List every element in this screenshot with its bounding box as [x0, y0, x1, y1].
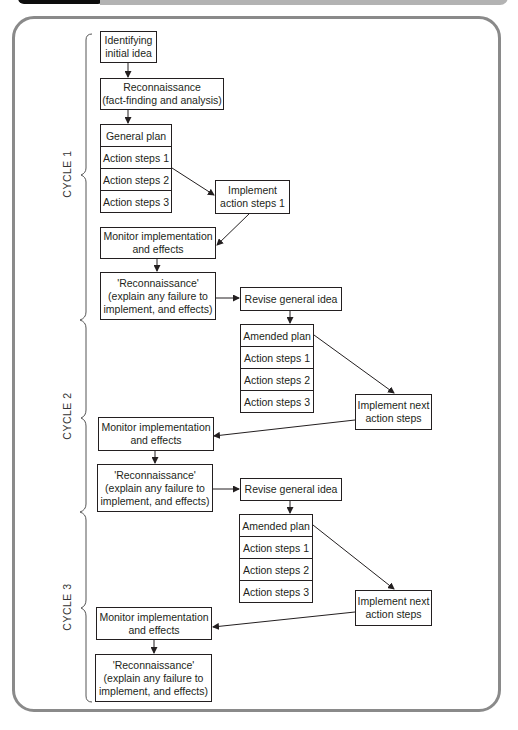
- box-line: initial idea: [105, 47, 152, 60]
- box-line: action steps: [365, 608, 421, 621]
- box-line: (explain any failure to: [108, 290, 208, 303]
- action-steps-3-row: Action steps 3: [241, 391, 313, 413]
- box-line: Implement next: [358, 595, 430, 608]
- cycle-3-label: CYCLE 3: [61, 583, 73, 630]
- box-line: (explain any failure to: [105, 482, 205, 495]
- box-line: Implement: [228, 184, 277, 197]
- box-line: and effects: [132, 243, 183, 256]
- box-line: implement, and effects): [104, 303, 213, 316]
- amended-plan-stack-2: Amended plan Action steps 1 Action steps…: [239, 514, 313, 603]
- box-line: implement, and effects): [99, 685, 208, 698]
- implement-next-box-2: Implement next action steps: [355, 590, 432, 626]
- implement-next-box-1: Implement next action steps: [355, 394, 432, 430]
- identifying-idea-box: Identifying initial idea: [100, 31, 157, 63]
- box-line: implement, and effects): [101, 495, 210, 508]
- box-line: Monitor implementation: [99, 611, 208, 624]
- box-line: Implement next: [358, 399, 430, 412]
- monitor-box-3: Monitor implementation and effects: [96, 607, 212, 640]
- action-steps-2-row: Action steps 2: [241, 369, 313, 391]
- action-steps-2-row: Action steps 2: [240, 559, 312, 581]
- cycle-braces: [80, 34, 92, 702]
- box-line: 'Reconnaissance': [117, 277, 199, 290]
- reconnaissance-review-box-1: 'Reconnaissance' (explain any failure to…: [100, 272, 216, 320]
- action-steps-1-row: Action steps 1: [101, 147, 171, 169]
- box-line: 'Reconnaissance': [114, 469, 196, 482]
- box-line: action steps 1: [220, 197, 285, 210]
- amended-plan-stack-1: Amended plan Action steps 1 Action steps…: [240, 324, 314, 413]
- box-line: Revise general idea: [245, 483, 338, 496]
- reconnaissance-review-box-3: 'Reconnaissance' (explain any failure to…: [95, 654, 212, 702]
- box-line: 'Reconnaissance': [113, 659, 195, 672]
- box-line: (explain any failure to: [104, 672, 204, 685]
- box-line: Revise general idea: [245, 293, 338, 306]
- reconnaissance-box: Reconnaissance (fact-finding and analysi…: [100, 78, 224, 110]
- box-line: action steps: [365, 412, 421, 425]
- box-line: Monitor implementation: [103, 230, 212, 243]
- amended-plan-row: Amended plan: [241, 325, 313, 347]
- cycle-2-label: CYCLE 2: [61, 392, 73, 439]
- monitor-box-2: Monitor implementation and effects: [98, 417, 214, 451]
- revise-idea-box-1: Revise general idea: [240, 287, 342, 311]
- box-line: Monitor implementation: [101, 421, 210, 434]
- general-plan-row: General plan: [101, 125, 171, 147]
- monitor-box-1: Monitor implementation and effects: [100, 227, 216, 259]
- action-steps-3-row: Action steps 3: [240, 581, 312, 603]
- implement-steps-1-box: Implement action steps 1: [215, 180, 290, 214]
- box-line: and effects: [128, 624, 179, 637]
- action-steps-1-row: Action steps 1: [241, 347, 313, 369]
- action-steps-2-row: Action steps 2: [101, 169, 171, 191]
- action-steps-1-row: Action steps 1: [240, 537, 312, 559]
- revise-idea-box-2: Revise general idea: [240, 478, 342, 501]
- box-line: (fact-finding and analysis): [102, 94, 222, 107]
- box-line: and effects: [130, 434, 181, 447]
- box-line: Reconnaissance: [123, 81, 201, 94]
- reconnaissance-review-box-2: 'Reconnaissance' (explain any failure to…: [97, 464, 213, 512]
- general-plan-stack: General plan Action steps 1 Action steps…: [100, 124, 172, 213]
- action-steps-3-row: Action steps 3: [101, 191, 171, 213]
- box-line: Identifying: [105, 34, 153, 47]
- cycle-1-label: CYCLE 1: [61, 150, 73, 197]
- amended-plan-row: Amended plan: [240, 515, 312, 537]
